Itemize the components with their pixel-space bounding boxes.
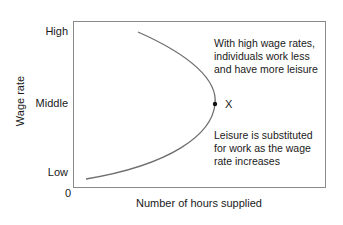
origin-label: 0: [65, 187, 71, 199]
y-tick-high: High: [45, 25, 68, 37]
lower-note-line-3: rate increases: [214, 155, 280, 167]
supply-curve: [86, 32, 215, 179]
upper-annotation: With high wage rates, individuals work l…: [214, 37, 318, 75]
point-x-label: X: [225, 98, 233, 110]
upper-note-line-1: With high wage rates,: [214, 37, 315, 49]
lower-note-line-1: Leisure is substituted: [214, 129, 313, 141]
lower-note-line-2: for work as the wage: [214, 142, 311, 154]
upper-note-line-3: and have more leisure: [214, 63, 318, 75]
y-tick-middle: Middle: [36, 97, 68, 109]
y-axis-label: Wage rate: [14, 76, 26, 126]
labour-supply-chart: X High Middle Low 0 Wage rate Number of …: [0, 0, 343, 225]
point-x-marker: [213, 102, 217, 106]
y-tick-low: Low: [48, 166, 68, 178]
lower-annotation: Leisure is substituted for work as the w…: [214, 129, 313, 167]
upper-note-line-2: individuals work less: [214, 50, 310, 62]
x-axis-label: Number of hours supplied: [136, 197, 262, 209]
